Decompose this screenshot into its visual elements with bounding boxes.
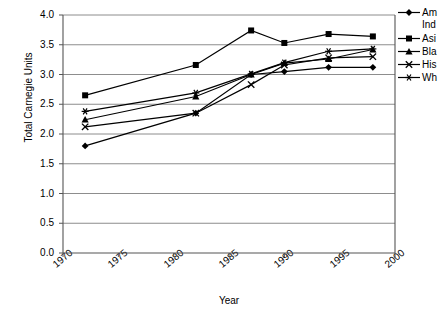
legend-label: Wh	[422, 72, 437, 83]
square-marker	[248, 27, 254, 33]
square-marker	[370, 33, 376, 39]
square-marker	[281, 40, 287, 46]
legend-item-asian[interactable]: Asi	[398, 32, 441, 45]
chart-figure: Total Carnegie Units Year 0.00.51.01.52.…	[0, 0, 441, 317]
legend-label: Bla	[422, 46, 436, 57]
legend-item-american-indian[interactable]: Am	[398, 6, 441, 19]
legend-item-white[interactable]: Wh	[398, 71, 441, 84]
square-marker	[406, 36, 412, 42]
asterisk-icon	[398, 71, 420, 84]
square-marker	[193, 62, 199, 68]
series-line	[85, 30, 373, 95]
series-american-indian	[82, 64, 377, 149]
series-hispanic	[82, 53, 376, 130]
diamond-marker	[325, 64, 332, 71]
square-marker	[82, 92, 88, 98]
series-asian	[82, 27, 376, 98]
diamond-marker	[369, 64, 376, 71]
triangle-icon	[398, 45, 420, 58]
square-icon	[398, 32, 420, 45]
diamond-marker	[82, 143, 89, 150]
legend-label: His	[422, 59, 436, 70]
chart-legend: AmIndAsiBlaHisWh	[398, 6, 441, 84]
legend-label: Am	[422, 7, 437, 18]
cross-icon	[398, 58, 420, 71]
diamond-marker	[281, 68, 288, 75]
legend-item-black[interactable]: Bla	[398, 45, 441, 58]
legend-label-continuation: Ind	[398, 19, 441, 32]
plot-area	[0, 0, 441, 317]
diamond-marker	[406, 9, 413, 16]
diamond-icon	[398, 6, 420, 19]
legend-item-hispanic[interactable]: His	[398, 58, 441, 71]
legend-label: Asi	[422, 33, 436, 44]
square-marker	[326, 31, 332, 37]
